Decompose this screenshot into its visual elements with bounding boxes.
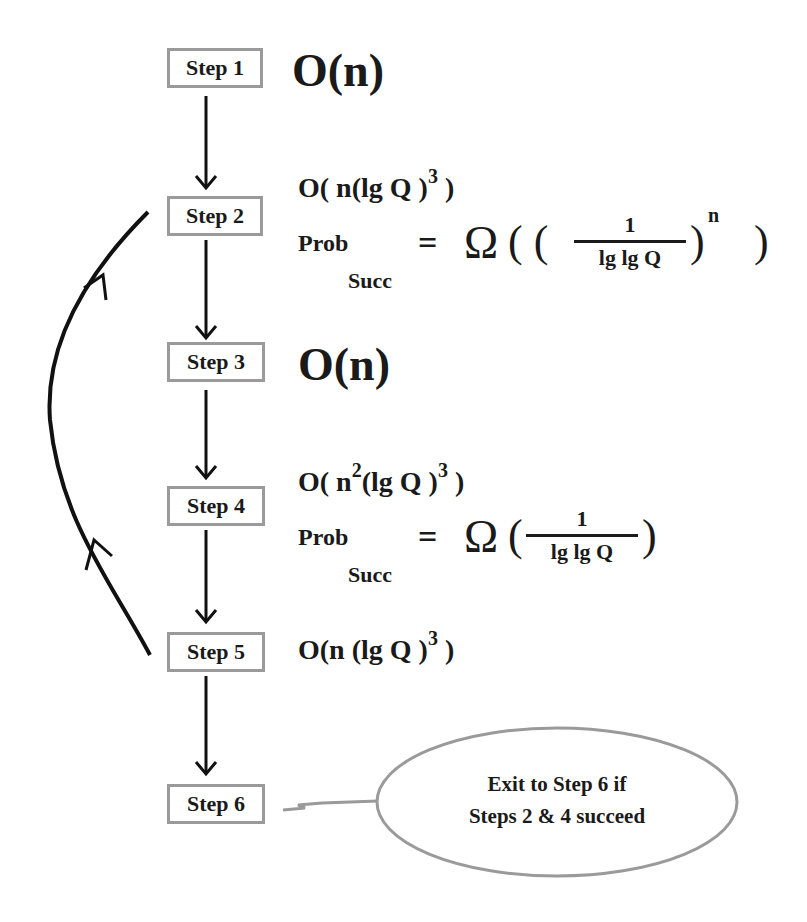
step-2-success-probability: Prob Succ = Ω ( ( 1 lg lg Q ) n ) xyxy=(298,222,798,302)
loop-back-arrow xyxy=(49,212,150,655)
step-2-label: Step 2 xyxy=(186,203,244,228)
step-4-label: Step 4 xyxy=(187,493,245,518)
callout-text: Exit to Step 6 if Steps 2 & 4 succeed xyxy=(392,768,722,832)
step-4-time-complexity: O( n2(lg Q )3 ) xyxy=(298,466,464,498)
callout-line-2: Steps 2 & 4 succeed xyxy=(392,800,722,832)
step-1-complexity: O(n) xyxy=(292,44,384,97)
step-6-label: Step 6 xyxy=(187,791,245,816)
step-3-complexity: O(n) xyxy=(298,338,390,391)
step-3-box: Step 3 xyxy=(167,342,265,382)
step-6-box: Step 6 xyxy=(167,784,265,824)
step-4-success-probability: Prob Succ = Ω ( 1 lg lg Q ) xyxy=(298,516,698,596)
step-5-label: Step 5 xyxy=(187,639,245,664)
step-4-box: Step 4 xyxy=(167,486,265,526)
step-2-box: Step 2 xyxy=(167,196,263,236)
callout-connector xyxy=(283,801,378,810)
step-5-box: Step 5 xyxy=(167,632,265,672)
step-1-label: Step 1 xyxy=(186,55,244,80)
step-5-time-complexity: O(n (lg Q )3 ) xyxy=(298,634,454,666)
step-1-box: Step 1 xyxy=(167,48,263,88)
callout-line-1: Exit to Step 6 if xyxy=(392,768,722,800)
step-3-label: Step 3 xyxy=(187,349,245,374)
step-2-time-complexity: O( n(lg Q )3 ) xyxy=(298,172,454,204)
